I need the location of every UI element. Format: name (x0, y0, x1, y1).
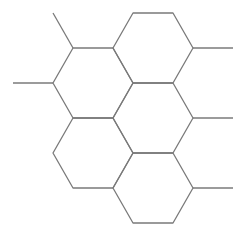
hexagon-grid-diagram (0, 0, 243, 230)
hexagon-center (113, 83, 193, 153)
hexagon-left-bottom (53, 118, 133, 188)
hexagon-left-top (53, 48, 133, 118)
hexagon-group (53, 13, 193, 223)
stub-top-left (53, 13, 73, 48)
hexagon-top (113, 13, 193, 83)
hexagon-bottom (113, 153, 193, 223)
